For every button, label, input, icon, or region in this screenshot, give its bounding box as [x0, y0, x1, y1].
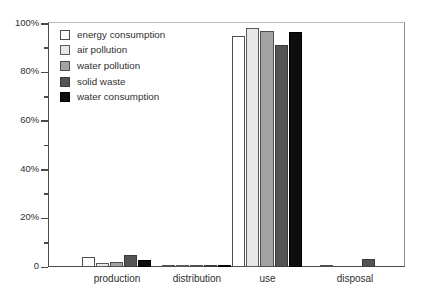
- legend-item-label: energy consumption: [77, 29, 165, 41]
- bar: [190, 265, 203, 267]
- bar: [260, 31, 273, 267]
- y-axis-tick-label: 20%: [20, 211, 39, 223]
- y-axis-tick-mark: [41, 169, 48, 171]
- legend-item-label: water consumption: [77, 91, 159, 103]
- legend-item: air pollution: [60, 43, 165, 59]
- legend-color-swatch: [60, 30, 70, 40]
- bar: [232, 36, 245, 267]
- y-axis-tick-mark: [41, 120, 48, 122]
- bar: [162, 265, 175, 267]
- legend-item: energy consumption: [60, 27, 165, 43]
- bar: [96, 263, 109, 267]
- bar: [110, 262, 123, 267]
- legend-item-label: air pollution: [77, 44, 127, 56]
- bar: [176, 265, 189, 267]
- x-axis-labels: productiondistributionusedisposal: [0, 272, 421, 294]
- y-axis-tick-mark: [44, 145, 48, 147]
- y-axis-tick-mark: [41, 23, 48, 25]
- legend-item: water pollution: [60, 58, 165, 74]
- y-axis-tick-mark: [41, 218, 48, 220]
- legend-color-swatch: [60, 77, 70, 87]
- chart-legend: energy consumptionair pollutionwater pol…: [60, 27, 165, 105]
- y-axis-tick-mark: [44, 47, 48, 49]
- y-axis-tick-label: 60%: [20, 114, 39, 126]
- bar: [362, 259, 375, 267]
- legend-color-swatch: [60, 61, 70, 71]
- bar: [246, 28, 259, 267]
- bar: [218, 265, 231, 267]
- bar: [289, 32, 302, 267]
- y-axis-tick-label: 0: [34, 260, 39, 272]
- legend-color-swatch: [60, 45, 70, 55]
- bar-group: [320, 24, 391, 268]
- y-axis: 020%40%60%80%100%: [0, 0, 48, 300]
- bar: [320, 265, 333, 267]
- y-axis-tick-label: 100%: [15, 17, 39, 29]
- y-axis-tick-mark: [44, 193, 48, 195]
- y-axis-tick-mark: [44, 96, 48, 98]
- legend-item-label: solid waste: [77, 76, 125, 88]
- bar: [204, 265, 217, 267]
- y-axis-tick-label: 40%: [20, 163, 39, 175]
- y-axis-tick-mark: [41, 267, 48, 269]
- bar-group: [232, 24, 303, 268]
- bar: [138, 260, 151, 267]
- bar-chart: 020%40%60%80%100% productiondistribution…: [0, 0, 421, 300]
- bar-group: [162, 24, 233, 268]
- legend-item: solid waste: [60, 74, 165, 90]
- y-axis-tick-label: 80%: [20, 65, 39, 77]
- x-axis-label: disposal: [295, 272, 415, 286]
- legend-item: water consumption: [60, 89, 165, 105]
- y-axis-tick-mark: [41, 72, 48, 74]
- legend-item-label: water pollution: [77, 60, 140, 72]
- bar: [124, 255, 137, 267]
- bar: [275, 45, 288, 267]
- bar: [82, 257, 95, 267]
- legend-color-swatch: [60, 92, 70, 102]
- y-axis-tick-mark: [44, 242, 48, 244]
